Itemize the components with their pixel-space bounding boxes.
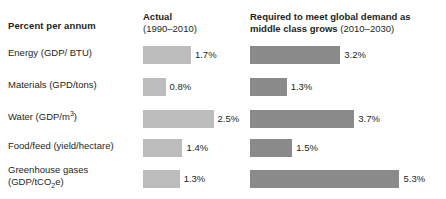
row-label: Food/feed (yield/hectare) bbox=[8, 140, 140, 152]
row-label: Greenhouse gases(GDP/tCO2e) bbox=[8, 164, 140, 187]
column-header-required: Required to meet global demand as middle… bbox=[250, 11, 442, 34]
actual-bar bbox=[143, 110, 214, 128]
row-label: Energy (GDP/ BTU) bbox=[8, 47, 140, 59]
actual-bar bbox=[143, 78, 166, 96]
actual-value-label: 0.8% bbox=[170, 81, 192, 93]
required-value-label: 1.3% bbox=[291, 81, 313, 93]
table-row: Materials (GPD/tons)0.8%1.3% bbox=[0, 78, 446, 104]
column-header-required-period: (2010–2030) bbox=[340, 23, 394, 34]
required-value-label: 1.5% bbox=[296, 142, 318, 154]
actual-value-label: 1.4% bbox=[186, 142, 208, 154]
required-bar bbox=[250, 78, 287, 96]
table-row: Food/feed (yield/hectare)1.4%1.5% bbox=[0, 139, 446, 165]
actual-bar bbox=[143, 139, 182, 157]
actual-value-label: 1.7% bbox=[195, 49, 217, 61]
column-header-required-line2: middle class grows bbox=[250, 23, 340, 34]
table-row: Water (GDP/m3)2.5%3.7% bbox=[0, 110, 446, 136]
required-value-label: 3.7% bbox=[358, 113, 380, 125]
column-header-actual-period: (1990–2010) bbox=[143, 23, 243, 35]
required-bar bbox=[250, 110, 354, 128]
table-row: Greenhouse gases(GDP/tCO2e)1.3%5.3% bbox=[0, 170, 446, 196]
row-label: Materials (GPD/tons) bbox=[8, 79, 140, 91]
row-label: Water (GDP/m3) bbox=[8, 111, 140, 123]
chart-row-axis-label: Percent per annum bbox=[8, 20, 96, 31]
actual-value-label: 2.5% bbox=[218, 113, 240, 125]
required-bar bbox=[250, 139, 292, 157]
table-row: Energy (GDP/ BTU)1.7%3.2% bbox=[0, 46, 446, 72]
column-header-actual: Actual (1990–2010) bbox=[143, 11, 243, 34]
column-header-required-line1: Required to meet global demand as bbox=[250, 11, 410, 22]
resource-productivity-chart: Percent per annum Actual (1990–2010) Req… bbox=[0, 0, 446, 199]
actual-value-label: 1.3% bbox=[184, 173, 206, 185]
actual-bar bbox=[143, 46, 191, 64]
required-value-label: 5.3% bbox=[403, 173, 425, 185]
required-value-label: 3.2% bbox=[344, 49, 366, 61]
actual-bar bbox=[143, 170, 180, 188]
column-header-actual-title: Actual bbox=[143, 11, 243, 23]
required-bar bbox=[250, 170, 399, 188]
required-bar bbox=[250, 46, 340, 64]
